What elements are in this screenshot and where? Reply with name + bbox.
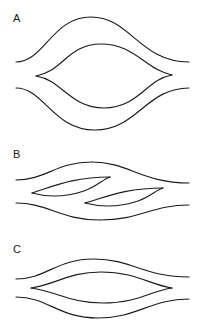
panel-c-drawing <box>0 236 203 330</box>
curve-b-lens2-upper <box>85 188 163 203</box>
panel-a: A <box>0 0 203 140</box>
curve-a-lens-lower <box>36 75 172 108</box>
curve-b-lens1-upper <box>32 177 110 193</box>
panel-b: B <box>0 140 203 236</box>
curve-a-lens-upper <box>36 44 172 76</box>
panel-c: C <box>0 236 203 330</box>
figure-root: A B C <box>0 0 203 330</box>
curve-c-lens-upper <box>31 272 172 288</box>
curve-a-outer-lower <box>16 88 189 130</box>
curve-c-outer-lower <box>16 297 189 318</box>
curve-a-outer-upper <box>16 17 189 62</box>
panel-a-drawing <box>0 0 203 140</box>
curve-b-lens1-lower <box>32 177 110 196</box>
curve-c-outer-upper <box>16 259 189 279</box>
curve-b-lens2-lower <box>85 188 163 206</box>
panel-b-drawing <box>0 140 203 236</box>
curve-b-outer-upper <box>16 162 189 183</box>
curve-c-lens-lower <box>31 288 172 303</box>
